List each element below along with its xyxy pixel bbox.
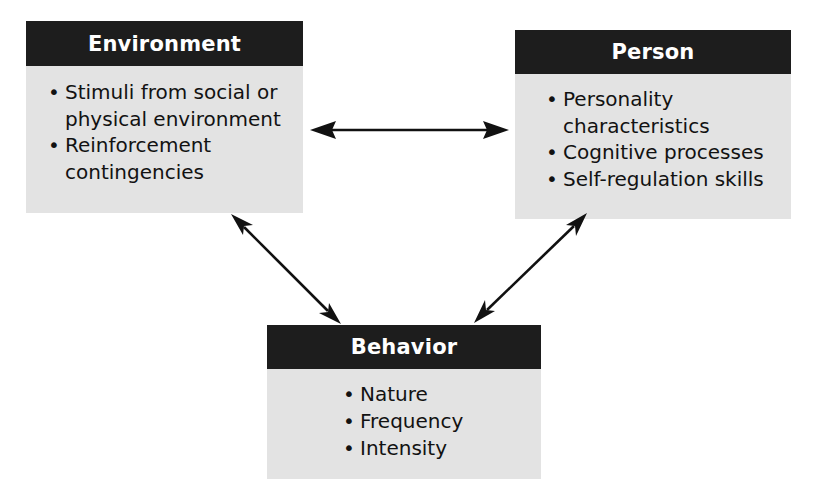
diagram-canvas: Environment Stimuli from social or physi… xyxy=(0,0,815,504)
node-behavior-body: Nature Frequency Intensity xyxy=(267,369,541,462)
list-item: Frequency xyxy=(343,408,531,435)
node-environment-title: Environment xyxy=(26,21,303,66)
node-person-bullet-list: Personality characteristics Cognitive pr… xyxy=(546,86,781,192)
list-item: Self-regulation skills xyxy=(546,166,781,193)
node-behavior[interactable]: Behavior Nature Frequency Intensity xyxy=(267,325,541,479)
node-environment-body: Stimuli from social or physical environm… xyxy=(26,66,303,185)
arrow-environment-person-icon xyxy=(310,121,509,139)
arrow-environment-behavior-icon xyxy=(231,214,341,324)
node-environment[interactable]: Environment Stimuli from social or physi… xyxy=(26,21,303,213)
list-item: Personality characteristics xyxy=(546,86,781,139)
node-person-title: Person xyxy=(515,30,791,74)
arrow-person-behavior-icon xyxy=(474,213,587,323)
node-behavior-title: Behavior xyxy=(267,325,541,369)
list-item: Cognitive processes xyxy=(546,139,781,166)
list-item: Nature xyxy=(343,381,531,408)
list-item: Intensity xyxy=(343,435,531,462)
node-environment-bullet-list: Stimuli from social or physical environm… xyxy=(48,79,293,185)
node-behavior-bullet-list: Nature Frequency Intensity xyxy=(343,381,531,462)
node-person[interactable]: Person Personality characteristics Cogni… xyxy=(515,30,791,219)
list-item: Reinforcement contingencies xyxy=(48,132,293,185)
node-person-body: Personality characteristics Cognitive pr… xyxy=(515,74,791,192)
list-item: Stimuli from social or physical environm… xyxy=(48,79,293,132)
